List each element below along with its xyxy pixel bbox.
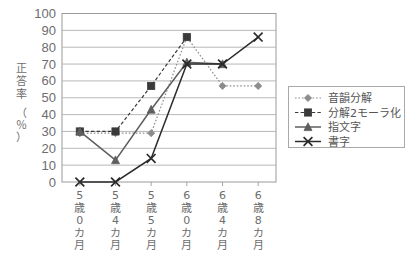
x-category-char: 6 <box>219 189 226 202</box>
x-category-char: カ <box>217 227 228 240</box>
y-axis-title-char: 率 <box>16 87 27 101</box>
marker-square <box>148 82 155 89</box>
x-category-char: カ <box>181 227 192 240</box>
x-category-char: カ <box>253 227 264 240</box>
legend-label: 分解2モーラ化 <box>328 106 401 120</box>
y-tick-label: 30 <box>42 124 56 139</box>
x-category-char: 6 <box>255 189 262 202</box>
y-tick-label: 20 <box>42 141 56 156</box>
y-tick-label: 60 <box>42 73 56 88</box>
x-category-char: 歳 <box>217 202 228 215</box>
x-category-char: 月 <box>217 239 228 252</box>
x-category-char: 歳 <box>146 202 157 215</box>
x-category-char: 歳 <box>110 202 121 215</box>
y-tick-label: 100 <box>34 6 56 21</box>
y-tick-label: 70 <box>42 57 56 72</box>
marker-square <box>304 109 311 116</box>
chart-container: 1009080706050403020100 正答率（％） 5歳0カ月5歳4カ月… <box>0 0 414 253</box>
legend-label: 書字 <box>328 135 350 149</box>
chart-legend: 音韻分解分解2モーラ化指文字書字 <box>289 87 405 149</box>
legend-label: 指文字 <box>328 120 361 134</box>
y-tick-label: 80 <box>42 40 56 55</box>
x-category-char: 4 <box>219 214 226 227</box>
x-category-char: 6 <box>183 189 190 202</box>
x-category-char: 5 <box>112 189 119 202</box>
x-category-char: 5 <box>148 189 155 202</box>
x-category-char: 歳 <box>74 202 85 215</box>
marker-square <box>183 33 190 40</box>
marker-square <box>112 128 119 135</box>
x-category-char: 月 <box>146 239 157 252</box>
y-tick-label: 90 <box>42 23 56 38</box>
y-axis-unit-char: ） <box>16 131 27 144</box>
x-category-char: 0 <box>183 214 190 227</box>
x-category-char: 8 <box>255 214 262 227</box>
y-axis-title-char: 答 <box>16 74 27 88</box>
x-category-char: 月 <box>253 239 264 252</box>
x-category-char: 0 <box>76 214 83 227</box>
y-tick-label: 0 <box>49 175 56 190</box>
y-tick-label: 10 <box>42 158 56 173</box>
x-category-char: 月 <box>74 239 85 252</box>
y-tick-label: 40 <box>42 107 56 122</box>
x-category-char: 5 <box>148 214 155 227</box>
y-tick-label: 50 <box>42 90 56 105</box>
x-category-char: 月 <box>110 239 121 252</box>
x-category-char: カ <box>146 227 157 240</box>
line-chart: 1009080706050403020100 正答率（％） 5歳0カ月5歳4カ月… <box>0 0 414 253</box>
x-category-char: 歳 <box>253 202 264 215</box>
x-category-char: カ <box>74 227 85 240</box>
legend-label: 音韻分解 <box>328 91 372 105</box>
x-category-char: 月 <box>181 239 192 252</box>
x-category-char: カ <box>110 227 121 240</box>
x-category-char: 5 <box>76 189 83 202</box>
x-category-char: 歳 <box>181 202 192 215</box>
y-axis-title-char: 正 <box>16 62 27 75</box>
x-category-char: 4 <box>112 214 119 227</box>
